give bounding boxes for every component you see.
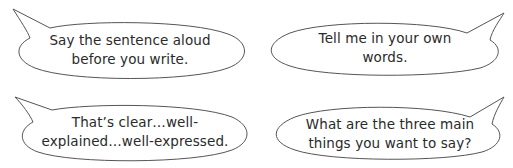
speech-line: Tell me in your own xyxy=(290,29,480,48)
speech-bubble-text: What are the three main things you want … xyxy=(290,115,490,153)
speech-line: What are the three main xyxy=(290,115,490,134)
speech-line: Say the sentence aloud xyxy=(35,31,225,50)
speech-bubble-text: That’s clear…well- explained…well-expres… xyxy=(35,113,235,151)
speech-line: things you want to say? xyxy=(290,134,490,153)
speech-line: words. xyxy=(290,48,480,67)
speech-bubble-text: Tell me in your own words. xyxy=(290,29,480,67)
speech-bubble-text: Say the sentence aloud before you write. xyxy=(35,31,225,69)
speech-line: before you write. xyxy=(35,50,225,69)
speech-line: That’s clear…well- xyxy=(35,113,235,132)
speech-line: explained…well-expressed. xyxy=(35,132,235,151)
